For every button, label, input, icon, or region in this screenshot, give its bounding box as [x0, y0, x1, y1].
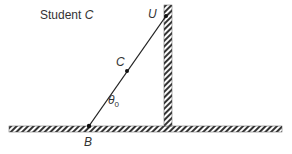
label-u: U [148, 8, 157, 20]
floor-surface [9, 126, 282, 132]
point-b [87, 124, 91, 128]
ladder-diagram [0, 0, 292, 154]
label-c: C [116, 56, 125, 68]
label-b: B [84, 136, 92, 148]
angle-label: θ0 [108, 94, 119, 106]
wall-surface [164, 5, 172, 126]
diagram-title: Student C [40, 9, 93, 21]
point-c [125, 69, 129, 73]
point-u [164, 14, 168, 18]
